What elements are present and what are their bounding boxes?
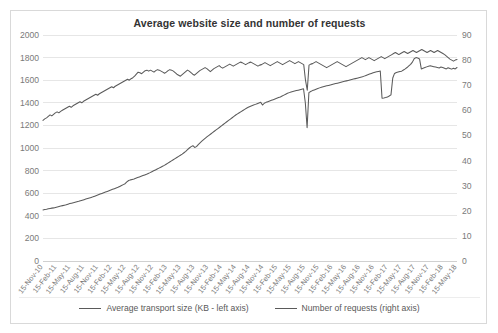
svg-text:1000: 1000 xyxy=(20,143,39,153)
chart-legend: Average transport size (KB - left axis) … xyxy=(11,303,488,313)
svg-text:60: 60 xyxy=(462,105,472,115)
svg-text:50: 50 xyxy=(462,130,472,140)
svg-text:1200: 1200 xyxy=(20,120,39,130)
x-axis-tick-labels: 15-Nov-1015-Feb-1115-May-1115-Aug-1115-N… xyxy=(16,263,458,296)
right-axis-tick-labels: 0102030405060708090 xyxy=(462,30,472,266)
legend-swatch-requests xyxy=(275,308,297,309)
legend-item-transport-size[interactable]: Average transport size (KB - left axis) xyxy=(79,303,248,313)
chart-svg: 0200400600800100012001400160018002000 01… xyxy=(11,11,488,325)
chart-card: Average website size and number of reque… xyxy=(10,10,487,324)
svg-text:20: 20 xyxy=(462,206,472,216)
plot-area: 0200400600800100012001400160018002000 01… xyxy=(11,11,488,325)
svg-text:1600: 1600 xyxy=(20,75,39,85)
series-line-requests xyxy=(43,50,457,121)
svg-text:40: 40 xyxy=(462,156,472,166)
svg-text:90: 90 xyxy=(462,30,472,40)
svg-text:30: 30 xyxy=(462,181,472,191)
svg-text:200: 200 xyxy=(25,233,40,243)
svg-text:1400: 1400 xyxy=(20,98,39,108)
legend-divider xyxy=(19,297,480,298)
svg-text:400: 400 xyxy=(25,211,40,221)
svg-text:2000: 2000 xyxy=(20,30,39,40)
legend-item-requests[interactable]: Number of requests (right axis) xyxy=(275,303,420,313)
svg-text:70: 70 xyxy=(462,80,472,90)
legend-label-requests: Number of requests (right axis) xyxy=(302,303,420,313)
svg-text:10: 10 xyxy=(462,231,472,241)
left-axis-tick-labels: 0200400600800100012001400160018002000 xyxy=(20,30,39,266)
legend-swatch-transport-size xyxy=(79,308,101,309)
svg-text:80: 80 xyxy=(462,55,472,65)
svg-text:0: 0 xyxy=(462,256,467,266)
legend-label-transport-size: Average transport size (KB - left axis) xyxy=(106,303,248,313)
svg-text:800: 800 xyxy=(25,166,40,176)
svg-text:600: 600 xyxy=(25,188,40,198)
gridlines xyxy=(43,35,457,261)
svg-text:1800: 1800 xyxy=(20,53,39,63)
